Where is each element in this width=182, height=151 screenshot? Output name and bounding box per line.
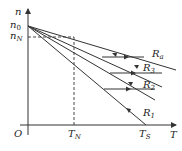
curve-label-Ra: Ra	[151, 48, 164, 61]
curve-label-R2: R2	[142, 79, 156, 92]
TN-label: TN	[68, 128, 82, 141]
origin-label: O	[14, 128, 22, 139]
curve-label-R1: R1	[142, 107, 155, 120]
x-axis-label: T	[170, 129, 178, 140]
TS-label: TS	[139, 128, 151, 141]
arrow-upleft-icon	[134, 65, 139, 69]
arrow-right-icon	[126, 87, 131, 92]
speed-torque-diagram: n T O n0 nN TN TS Ra R3 R2 R1	[0, 0, 182, 151]
arrow-upleft-icon	[112, 53, 117, 57]
y-axis-label: n	[15, 6, 21, 17]
